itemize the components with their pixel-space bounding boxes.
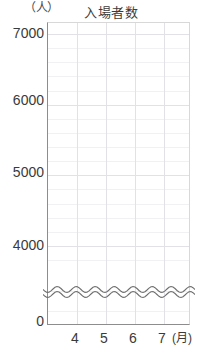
- chart-title: 入場者数: [84, 5, 138, 20]
- y-tick-6000: 6000: [13, 92, 44, 108]
- x-tick-5: 5: [100, 330, 108, 346]
- gridlines: [48, 23, 190, 325]
- x-tick-6: 6: [129, 330, 137, 346]
- chart-container: （人） 入場者数 7000 6000 5000 4000 0 4 5 6 7 (…: [0, 0, 207, 361]
- y-axis-unit-label: （人）: [24, 1, 59, 15]
- x-tick-4: 4: [71, 330, 79, 346]
- axis-break-squiggle: [43, 281, 195, 303]
- y-tick-0: 0: [36, 313, 44, 329]
- y-tick-4000: 4000: [13, 237, 44, 253]
- x-axis-unit-label: (月): [172, 331, 192, 346]
- x-tick-7: 7: [158, 330, 166, 346]
- plot-area: [47, 22, 190, 325]
- y-tick-7000: 7000: [13, 25, 44, 41]
- y-tick-5000: 5000: [13, 164, 44, 180]
